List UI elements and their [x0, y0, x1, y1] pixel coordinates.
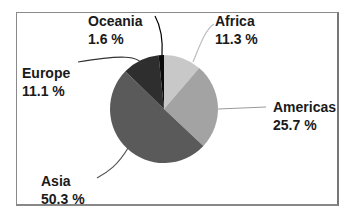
label-africa-name: Africa	[215, 12, 258, 30]
label-asia-name: Asia	[41, 172, 85, 190]
label-europe: Europe 11.1 %	[22, 64, 70, 100]
leader-oceania	[155, 16, 162, 56]
leader-americas	[218, 107, 266, 109]
label-americas: Americas 25.7 %	[273, 98, 336, 134]
label-asia: Asia 50.3 %	[41, 172, 85, 208]
label-oceania-name: Oceania	[88, 12, 142, 30]
label-asia-value: 50.3 %	[41, 190, 85, 208]
label-oceania: Oceania 1.6 %	[88, 12, 142, 48]
label-africa: Africa 11.3 %	[215, 12, 258, 48]
leader-africa	[193, 24, 214, 62]
leader-asia	[97, 148, 128, 178]
label-africa-value: 11.3 %	[215, 30, 258, 48]
label-europe-name: Europe	[22, 64, 70, 82]
label-oceania-value: 1.6 %	[88, 30, 142, 48]
label-americas-value: 25.7 %	[273, 116, 336, 134]
label-europe-value: 11.1 %	[22, 82, 70, 100]
label-americas-name: Americas	[273, 98, 336, 116]
